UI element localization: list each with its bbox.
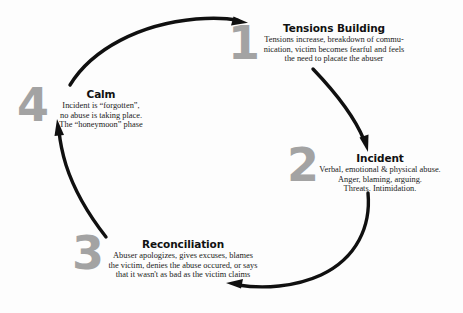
stage-body-3: Abuser apologizes, gives excuses, blames… <box>88 251 278 280</box>
stage-text-3: Reconciliation Abuser apologizes, gives … <box>88 238 278 280</box>
arrow-to-tensions-building <box>70 17 248 86</box>
stage-body-line: that it wasn't as bad as the victim clai… <box>88 270 278 280</box>
stage-body-line: Anger, blaming, arguing. <box>300 175 460 185</box>
stage-body-4: Incident is “forgotten”, no abuse is tak… <box>34 101 168 130</box>
stage-body-line: Abuser apologizes, gives excuses, blames <box>88 251 278 261</box>
stage-title-3: Reconciliation <box>88 238 278 250</box>
stage-body-2: Verbal, emotional & physical abuse. Ange… <box>300 165 460 194</box>
cycle-of-abuse-diagram: 1 Tensions Building Tensions increase, b… <box>0 0 463 313</box>
stage-body-1: Tensions increase, breakdown of commu- n… <box>248 35 420 64</box>
stage-title-4: Calm <box>34 88 168 100</box>
stage-body-line: Threats. Intimidation. <box>300 184 460 194</box>
stage-text-1: Tensions Building Tensions increase, bre… <box>248 22 420 64</box>
stage-body-line: The “honeymoon” phase <box>34 120 168 130</box>
stage-body-line: the victim, denies the abuse occured, or… <box>88 261 278 271</box>
stage-body-line: Incident is “forgotten”, <box>34 101 168 111</box>
stage-text-2: Incident Verbal, emotional & physical ab… <box>300 152 460 194</box>
arrow-to-incident <box>313 69 369 152</box>
arrow-to-calm <box>55 119 107 237</box>
stage-body-line: Verbal, emotional & physical abuse. <box>300 165 460 175</box>
stage-title-1: Tensions Building <box>248 22 420 34</box>
stage-body-line: no abuse is taking place. <box>34 111 168 121</box>
stage-body-line: nication, victim becomes fearful and fee… <box>248 45 420 55</box>
stage-title-2: Incident <box>300 152 460 164</box>
stage-body-line: Tensions increase, breakdown of commu- <box>248 35 420 45</box>
stage-body-line: the need to placate the abuser <box>248 54 420 64</box>
stage-text-4: Calm Incident is “forgotten”, no abuse i… <box>34 88 168 130</box>
